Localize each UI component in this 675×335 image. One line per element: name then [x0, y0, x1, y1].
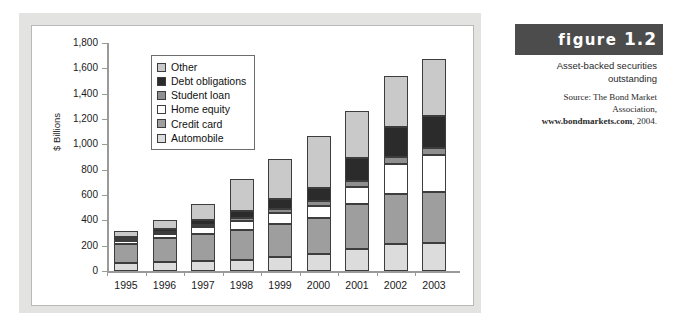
bar-segment-student_loan[interactable]: [307, 201, 331, 205]
figure-caption-text: Asset-backed securities outstanding: [515, 55, 663, 86]
bar-2002[interactable]: [384, 76, 408, 271]
legend-item-home_equity[interactable]: Home equity: [157, 103, 246, 117]
bar-segment-other[interactable]: [345, 111, 369, 158]
legend-item-label: Debt obligations: [171, 76, 246, 87]
y-axis-tick-label: 1,000: [73, 139, 98, 149]
figure-source: Source: The Bond Market Association, www…: [515, 86, 663, 127]
bar-segment-home_equity[interactable]: [268, 213, 292, 224]
y-axis-tick: [102, 68, 109, 69]
legend-item-label: Home equity: [171, 104, 230, 115]
figure-number-bar: figure 1.2: [515, 24, 663, 55]
bar-segment-other[interactable]: [153, 220, 177, 229]
bar-segment-credit_card[interactable]: [114, 244, 138, 263]
bar-segment-automobile[interactable]: [345, 249, 369, 271]
bar-segment-automobile[interactable]: [422, 243, 446, 271]
bar-segment-student_loan[interactable]: [422, 148, 446, 155]
figure-source-line3: www.bondmarkets.com, 2004.: [515, 115, 657, 127]
bar-segment-credit_card[interactable]: [268, 224, 292, 257]
bar-1998[interactable]: [230, 179, 254, 271]
bar-segment-credit_card[interactable]: [307, 218, 331, 253]
bar-segment-student_loan[interactable]: [268, 209, 292, 213]
x-axis-tick: [338, 271, 339, 276]
x-axis-line: [107, 271, 460, 273]
legend-item-debt_obligations[interactable]: Debt obligations: [157, 74, 246, 88]
bar-2000[interactable]: [307, 136, 331, 271]
bar-segment-student_loan[interactable]: [191, 225, 215, 227]
x-axis-tick-label: 1998: [230, 279, 253, 291]
legend-item-automobile[interactable]: Automobile: [157, 131, 246, 145]
legend-swatch-icon: [157, 105, 166, 114]
chart-legend: OtherDebt obligationsStudent loanHome eq…: [151, 55, 255, 150]
bar-1996[interactable]: [153, 220, 177, 271]
y-axis-tick: [102, 94, 109, 95]
bar-1995[interactable]: [114, 231, 138, 271]
legend-item-label: Credit card: [171, 119, 222, 130]
bar-segment-debt_obligations[interactable]: [230, 211, 254, 218]
x-axis-tick-label: 2000: [307, 279, 330, 291]
bar-2001[interactable]: [345, 111, 369, 271]
y-axis-tick-label: 200: [81, 241, 98, 251]
bar-segment-home_equity[interactable]: [384, 164, 408, 194]
bar-segment-debt_obligations[interactable]: [422, 116, 446, 148]
bar-segment-automobile[interactable]: [307, 254, 331, 271]
y-axis-line: [107, 43, 109, 271]
bar-segment-credit_card[interactable]: [345, 204, 369, 249]
bar-segment-credit_card[interactable]: [422, 192, 446, 243]
bar-segment-other[interactable]: [384, 76, 408, 127]
bar-segment-home_equity[interactable]: [422, 155, 446, 192]
bar-segment-automobile[interactable]: [114, 263, 138, 271]
bar-segment-home_equity[interactable]: [153, 234, 177, 238]
x-axis-tick-label: 2001: [345, 279, 368, 291]
y-axis-tick-label: 800: [81, 165, 98, 175]
bar-segment-credit_card[interactable]: [384, 194, 408, 243]
bar-segment-automobile[interactable]: [191, 261, 215, 271]
y-axis-tick-label: 400: [81, 215, 98, 225]
x-axis-tick-label: 1997: [191, 279, 214, 291]
bar-segment-student_loan[interactable]: [384, 157, 408, 164]
bar-segment-automobile[interactable]: [268, 257, 292, 271]
bar-segment-other[interactable]: [191, 204, 215, 220]
y-axis-tick: [102, 170, 109, 171]
bar-segment-home_equity[interactable]: [114, 241, 138, 245]
legend-item-student_loan[interactable]: Student loan: [157, 88, 246, 102]
legend-item-credit_card[interactable]: Credit card: [157, 117, 246, 131]
bar-segment-other[interactable]: [307, 136, 331, 188]
figure-container: $ Billions 1,8001,6001,4001,2001,0008006…: [0, 0, 675, 335]
bar-segment-student_loan[interactable]: [345, 181, 369, 187]
bar-segment-debt_obligations[interactable]: [384, 127, 408, 157]
figure-source-line2: Association,: [515, 103, 657, 115]
bar-segment-debt_obligations[interactable]: [114, 237, 138, 239]
bar-segment-automobile[interactable]: [384, 244, 408, 271]
bar-segment-other[interactable]: [422, 59, 446, 115]
bar-segment-debt_obligations[interactable]: [153, 229, 177, 232]
bar-segment-credit_card[interactable]: [191, 234, 215, 261]
bar-segment-debt_obligations[interactable]: [345, 158, 369, 181]
bar-segment-debt_obligations[interactable]: [307, 188, 331, 201]
bar-segment-home_equity[interactable]: [230, 221, 254, 231]
x-axis-tick: [223, 271, 224, 276]
bar-segment-automobile[interactable]: [153, 262, 177, 271]
bar-segment-automobile[interactable]: [230, 260, 254, 271]
y-axis-tick-label: 1,400: [73, 89, 98, 99]
bar-segment-credit_card[interactable]: [153, 238, 177, 262]
figure-source-year: , 2004.: [632, 116, 657, 126]
bar-segment-debt_obligations[interactable]: [191, 220, 215, 224]
bar-segment-other[interactable]: [114, 231, 138, 237]
y-axis-tick-label: 1,800: [73, 38, 98, 48]
legend-item-other[interactable]: Other: [157, 60, 246, 74]
legend-swatch-icon: [157, 134, 166, 143]
legend-item-label: Other: [171, 62, 197, 73]
bar-segment-home_equity[interactable]: [307, 206, 331, 219]
x-axis-tick-label: 2003: [422, 279, 445, 291]
bar-segment-credit_card[interactable]: [230, 230, 254, 260]
bar-segment-other[interactable]: [268, 159, 292, 199]
bar-segment-home_equity[interactable]: [191, 227, 215, 235]
bar-2003[interactable]: [422, 59, 446, 271]
bar-segment-debt_obligations[interactable]: [268, 199, 292, 209]
legend-swatch-icon: [157, 77, 166, 86]
bar-segment-other[interactable]: [230, 179, 254, 211]
bar-1997[interactable]: [191, 204, 215, 271]
bar-segment-home_equity[interactable]: [345, 187, 369, 204]
bar-1999[interactable]: [268, 159, 292, 271]
bar-segment-student_loan[interactable]: [230, 218, 254, 221]
